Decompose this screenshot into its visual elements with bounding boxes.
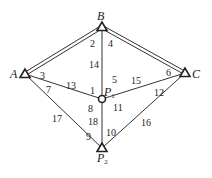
angle-label: 16 [141,117,151,128]
angle-label: 11 [113,102,123,113]
angle-label: 5 [112,74,117,85]
angle-label: 3 [40,70,45,81]
angle-label: 15 [131,75,141,86]
point-label-B: B [97,9,105,23]
angle-label: 2 [90,38,95,49]
angle-label: 12 [154,87,164,98]
point-label-P2: P2 [96,151,108,166]
angle-label: 6 [166,67,171,78]
angle-label: 14 [89,59,99,70]
angle-label: 1 [90,85,95,96]
point-label-A: A [9,67,18,81]
angle-label: 10 [106,127,116,138]
angle-label: 17 [52,113,62,124]
edge-B-C [101,28,184,74]
angle-label: 8 [88,103,93,114]
angle-label: 13 [66,80,76,91]
point-label-C: C [192,67,201,81]
survey-network-diagram: ABCP1P2 123456789101112131415161718 [0,0,212,178]
angle-label: 9 [86,131,91,142]
angle-label: 18 [88,116,98,127]
edge-B-C [103,26,186,72]
control-point-triangle-icon [97,22,107,31]
point-label-P1: P1 [103,85,115,100]
angle-label: 7 [46,84,51,95]
angle-label: 4 [108,38,113,49]
network-points: ABCP1P2 [9,9,201,166]
